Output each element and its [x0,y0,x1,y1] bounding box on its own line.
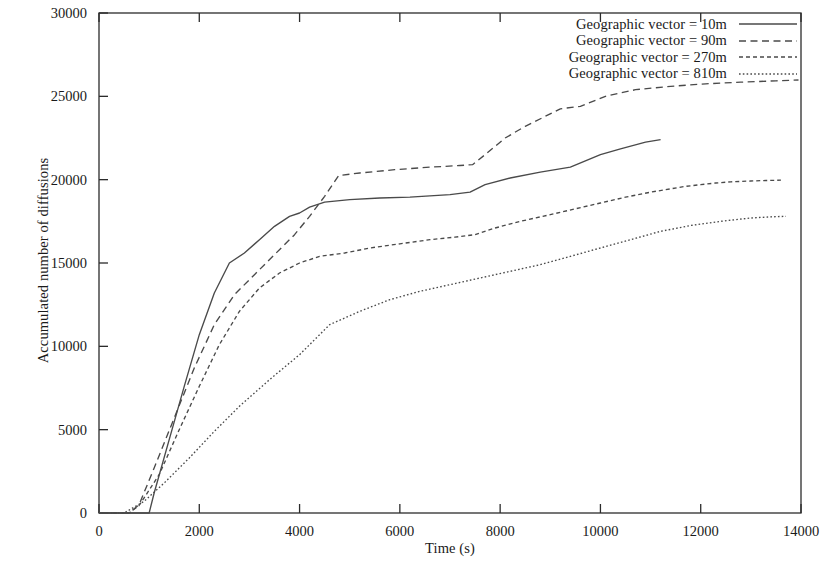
x-tick-label: 2000 [154,524,244,539]
series-line [99,140,661,513]
plot-frame [99,13,801,513]
x-tick-label: 10000 [555,524,645,539]
line-chart-figure: Accumulated number of diffusions Time (s… [0,0,821,565]
y-tick-label: 10000 [9,339,87,354]
x-axis-ticks [99,13,801,513]
series-line [99,80,798,513]
legend-swatch-dashed [737,35,799,47]
legend-label-810m: Geographic vector = 810m [569,65,737,82]
series-line [99,180,781,513]
x-tick-label: 12000 [656,524,746,539]
y-axis-ticks [99,13,108,513]
x-tick-label: 4000 [255,524,345,539]
y-tick-label: 15000 [9,256,87,271]
axes-group [99,13,801,513]
legend-swatch-dotted-dash [737,51,799,63]
y-tick-label: 0 [9,506,87,521]
y-tick-label: 5000 [9,423,87,438]
x-tick-label: 14000 [756,524,821,539]
plot-canvas [0,0,821,565]
x-tick-label: 0 [54,524,144,539]
legend-entry: Geographic vector = 90m [527,33,799,50]
data-series-group [99,80,798,513]
y-tick-label: 25000 [9,89,87,104]
chart-legend: Geographic vector = 10m Geographic vecto… [527,16,799,82]
legend-label-270m: Geographic vector = 270m [569,49,737,66]
legend-entry: Geographic vector = 10m [527,16,799,33]
legend-entry: Geographic vector = 270m [527,49,799,66]
legend-swatch-solid [737,18,799,30]
series-line [99,216,786,513]
legend-swatch-dotted [737,68,799,80]
x-axis-title: Time (s) [99,540,801,557]
y-tick-label: 30000 [9,6,87,21]
legend-entry: Geographic vector = 810m [527,66,799,83]
x-tick-label: 6000 [355,524,445,539]
x-tick-label: 8000 [455,524,545,539]
y-tick-label: 20000 [9,173,87,188]
legend-label-10m: Geographic vector = 10m [576,16,737,33]
legend-label-90m: Geographic vector = 90m [576,32,737,49]
